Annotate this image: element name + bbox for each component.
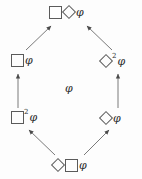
node-top-phi-label: φ [76,7,84,18]
node-center-phi-label: φ [65,83,73,94]
node-lower-right: φ [100,111,121,125]
node-upper-right-exponent: 2 [112,53,116,60]
node-lower-left-exponent: 2 [24,109,28,116]
diamond-operator-icon [99,111,113,125]
diamond-operator-icon [62,5,76,19]
box-operator-icon [49,6,62,19]
node-lower-left-phi-label: φ [29,112,37,123]
box-operator-icon [11,54,24,67]
edge-upperleft-to-top [26,26,51,50]
node-upper-right-phi-label: φ [117,56,125,67]
box-operator-icon [65,159,78,172]
node-upper-left: φ [11,54,33,67]
node-top: φ [49,5,84,19]
edge-upperright-to-top [87,26,112,50]
node-lower-right-phi-label: φ [113,113,121,124]
diamond-operator-icon [51,158,65,172]
edge-bottom-to-lowerright [84,130,109,155]
node-upper-left-phi-label: φ [25,55,33,66]
modal-lattice-diagram: φ φ 2 φ 2 φ φ φ φ [0,0,142,179]
node-bottom: φ [52,158,87,172]
node-center: φ [64,83,73,94]
node-upper-right: 2 φ [100,54,125,68]
box-operator-icon [11,111,24,124]
node-lower-left: 2 φ [11,111,37,124]
node-bottom-phi-label: φ [79,160,87,171]
edge-bottom-to-lowerleft [29,130,55,155]
diamond-operator-icon [99,54,113,68]
